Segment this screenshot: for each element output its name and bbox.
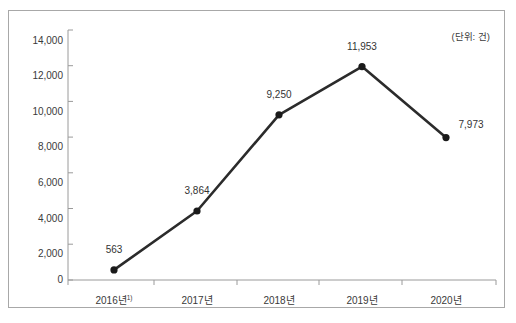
x-axis-tick-label-2016: 2016년1) [69,292,159,307]
data-point-marker [358,63,365,70]
chart-figure: (단위: 건) 14,000 12,000 10,000 8,000 6,000… [0,0,516,323]
data-point-marker [275,111,282,118]
chart-frame: (단위: 건) 14,000 12,000 10,000 8,000 6,000… [8,10,505,308]
data-point-marker [110,266,117,273]
data-point-label: 563 [84,244,144,255]
x-axis-tick-label-2019: 2019년 [317,292,407,307]
x-axis-tick-label-text: 2016년 [95,295,126,306]
data-point-marker [193,207,200,214]
x-axis-tick-label-2018: 2018년 [234,292,324,307]
x-axis-tick-label-2020: 2020년 [401,292,491,307]
x-axis-tick-label-2017: 2017년 [152,292,242,307]
data-point-label: 11,953 [332,41,392,52]
data-point-label: 9,250 [249,89,309,100]
data-point-label: 3,864 [167,185,227,196]
data-point-label: 7,973 [441,119,501,130]
data-point-marker [442,134,449,141]
x-axis-footnote-marker: 1) [127,294,133,301]
plot-area [9,11,504,307]
